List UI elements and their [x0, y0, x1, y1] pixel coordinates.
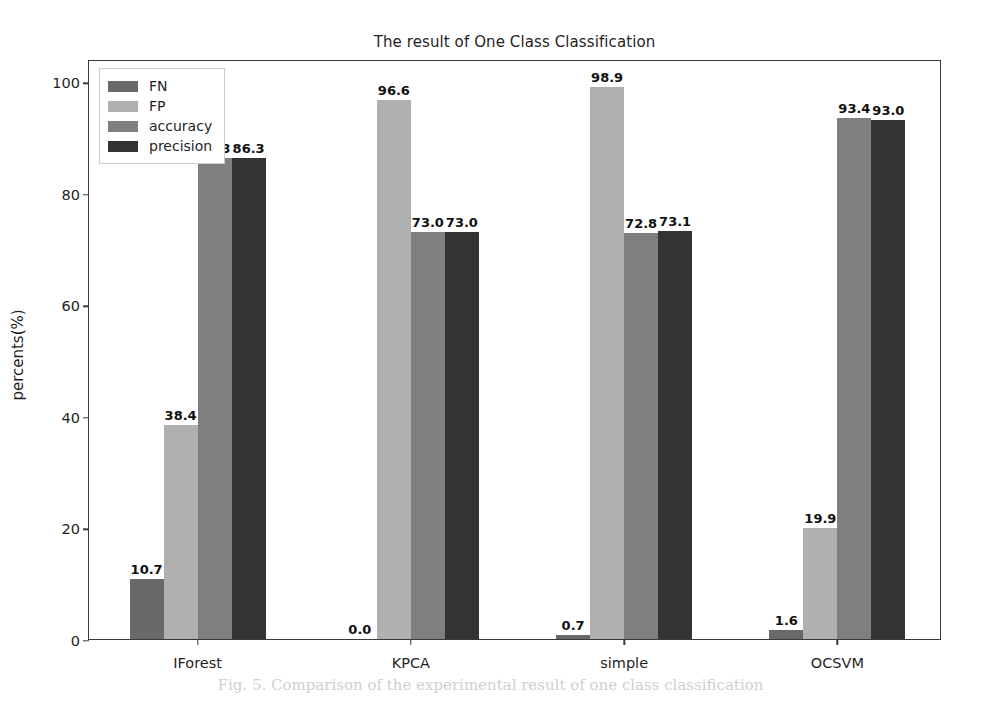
bar-fp-iforest: 38.4 — [164, 425, 198, 639]
bar-value-label: 10.7 — [131, 563, 163, 576]
bar-value-label: 72.8 — [625, 217, 657, 230]
bar-precision-simple: 73.1 — [658, 231, 692, 639]
bar-value-label: 1.6 — [775, 614, 798, 627]
y-axis-label: percents(%) — [9, 309, 27, 400]
x-tick-mark — [837, 639, 838, 645]
bar-value-label: 0.0 — [348, 623, 371, 636]
y-tick-label: 100 — [52, 75, 80, 91]
bar-accuracy-kpca: 73.0 — [411, 232, 445, 639]
bar-precision-kpca: 73.0 — [445, 232, 479, 639]
legend-label: precision — [149, 138, 212, 154]
page-title: The result of One Class Classification — [88, 33, 941, 51]
bar-value-label: 38.4 — [165, 409, 197, 422]
bar-precision-ocsvm: 93.0 — [871, 120, 905, 639]
bar-accuracy-ocsvm: 93.4 — [837, 118, 871, 639]
y-tick-mark — [83, 529, 89, 530]
y-tick-label: 80 — [62, 187, 80, 203]
bar-value-label: 98.9 — [591, 71, 623, 84]
bar-value-label: 86.3 — [233, 142, 265, 155]
bar-fn-ocsvm: 1.6 — [769, 630, 803, 639]
y-tick-label: 0 — [71, 633, 80, 649]
y-tick-label: 40 — [62, 410, 80, 426]
y-tick-label: 60 — [62, 298, 80, 314]
bar-value-label: 73.1 — [659, 215, 691, 228]
x-tick-mark — [410, 639, 411, 645]
y-tick-mark — [83, 194, 89, 195]
legend-label: FN — [149, 78, 168, 94]
x-tick-label: OCSVM — [811, 655, 864, 671]
legend-swatch-icon — [108, 81, 138, 92]
legend-item-fp[interactable]: FP — [108, 96, 212, 116]
bar-value-label: 96.6 — [378, 84, 410, 97]
legend-swatch-icon — [108, 121, 138, 132]
bar-value-label: 73.0 — [446, 216, 478, 229]
bar-fp-simple: 98.9 — [590, 87, 624, 639]
chart-legend: FNFPaccuracyprecision — [99, 68, 225, 164]
figure-container: The result of One Class Classification 0… — [0, 0, 981, 709]
bar-value-label: 0.7 — [562, 619, 585, 632]
legend-swatch-icon — [108, 101, 138, 112]
bar-fp-ocsvm: 19.9 — [803, 528, 837, 639]
bar-fp-kpca: 96.6 — [377, 100, 411, 639]
y-tick-mark — [83, 640, 89, 641]
bar-fn-iforest: 10.7 — [130, 579, 164, 639]
bar-value-label: 93.4 — [838, 102, 870, 115]
legend-item-fn[interactable]: FN — [108, 76, 212, 96]
x-tick-label: simple — [600, 655, 648, 671]
bar-accuracy-simple: 72.8 — [624, 233, 658, 639]
bar-precision-iforest: 86.3 — [232, 158, 266, 639]
y-tick-mark — [83, 306, 89, 307]
legend-item-accuracy[interactable]: accuracy — [108, 116, 212, 136]
x-tick-mark — [623, 639, 624, 645]
x-tick-label: IForest — [173, 655, 222, 671]
bar-value-label: 19.9 — [804, 512, 836, 525]
bar-value-label: 93.0 — [872, 104, 904, 117]
bar-fn-simple: 0.7 — [556, 635, 590, 639]
x-tick-label: KPCA — [392, 655, 430, 671]
x-tick-mark — [197, 639, 198, 645]
y-tick-mark — [83, 417, 89, 418]
bar-accuracy-iforest: 86.3 — [198, 158, 232, 639]
y-tick-mark — [83, 83, 89, 84]
y-tick-label: 20 — [62, 521, 80, 537]
bar-value-label: 73.0 — [412, 216, 444, 229]
legend-label: accuracy — [149, 118, 212, 134]
legend-item-precision[interactable]: precision — [108, 136, 212, 156]
figure-caption: Fig. 5. Comparison of the experimental r… — [0, 676, 981, 698]
plot-area: 020406080100 IForestKPCAsimpleOCSVM 10.7… — [88, 60, 941, 640]
legend-label: FP — [149, 98, 166, 114]
legend-swatch-icon — [108, 141, 138, 152]
